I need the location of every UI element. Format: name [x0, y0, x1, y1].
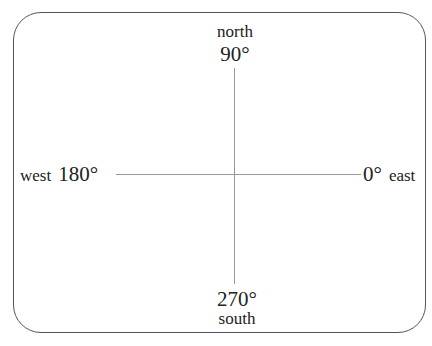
west-angle: 180°	[58, 164, 98, 185]
west-label: west	[20, 167, 51, 184]
north-angle: 90°	[220, 44, 249, 65]
south-label: south	[219, 310, 256, 327]
north-south-axis-line	[234, 68, 235, 284]
east-angle: 0°	[363, 164, 382, 185]
east-west-axis-line	[116, 174, 361, 175]
west-group: west 180°	[20, 164, 98, 185]
east-label: east	[389, 167, 415, 184]
east-group: 0° east	[363, 164, 415, 185]
north-label: north	[217, 23, 253, 40]
south-angle: 270°	[217, 289, 257, 310]
